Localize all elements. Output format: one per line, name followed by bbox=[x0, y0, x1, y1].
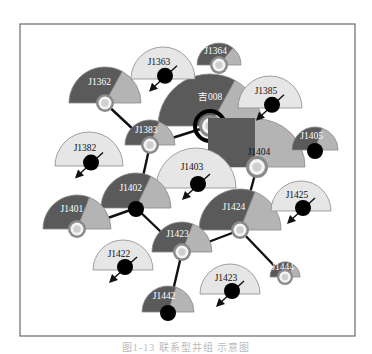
well-label: J1405 bbox=[300, 131, 323, 141]
injector-well-icon bbox=[178, 248, 186, 256]
well-label: J1362 bbox=[88, 77, 111, 87]
injector-well-icon bbox=[215, 61, 223, 69]
well-label: J1422 bbox=[108, 249, 131, 259]
well-label: J1424 bbox=[222, 202, 245, 212]
injector-well-icon bbox=[101, 99, 109, 107]
well-label: 吉008 bbox=[198, 92, 223, 102]
oil-well-dot bbox=[160, 305, 176, 321]
well-label: J1363 bbox=[148, 57, 171, 67]
well-label: J1383 bbox=[135, 125, 158, 135]
well-label: J1364 bbox=[204, 46, 227, 56]
well-label: J1442 bbox=[153, 291, 176, 301]
oil-well-dot bbox=[117, 259, 133, 275]
oil-well-dot bbox=[224, 283, 240, 299]
well-label: J1385 bbox=[255, 86, 278, 96]
well-label: J1401 bbox=[61, 204, 84, 214]
well-label: J1404 bbox=[248, 147, 271, 157]
figure-caption: 图1-13 联系型井组 示意图 bbox=[0, 339, 372, 354]
well-label: J1402 bbox=[119, 183, 142, 193]
injector-well-icon bbox=[236, 226, 244, 234]
well-label: J1425 bbox=[286, 190, 309, 200]
oil-well-dot bbox=[307, 143, 323, 159]
oil-well-dot bbox=[157, 68, 173, 84]
injector-well-icon bbox=[146, 141, 154, 149]
oil-well-dot bbox=[190, 176, 206, 192]
well-label: J1382 bbox=[74, 143, 97, 153]
oil-well-dot bbox=[295, 200, 311, 216]
injector-well-icon bbox=[282, 274, 289, 281]
well-label: J1423 bbox=[215, 273, 238, 283]
injector-well-icon bbox=[252, 162, 261, 171]
well-label: J1423 bbox=[166, 229, 189, 239]
oil-well-dot bbox=[83, 155, 99, 171]
oil-well-dot bbox=[128, 201, 144, 217]
oil-well-dot bbox=[264, 97, 280, 113]
well-label: J1403 bbox=[181, 162, 204, 172]
injector-well-icon bbox=[73, 225, 81, 233]
